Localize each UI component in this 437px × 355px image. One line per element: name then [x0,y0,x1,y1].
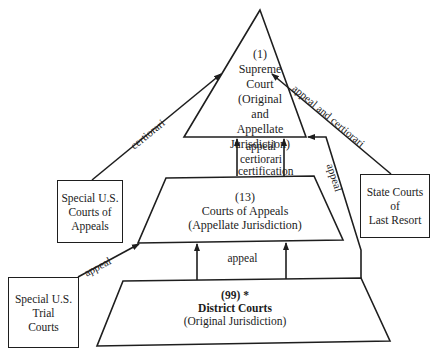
courts-of-appeals-jurisdiction: (Appellate Jurisdiction) [170,218,320,232]
special-trial-courts-text: Special U.S. Trial Courts [15,292,72,334]
special-trial-courts-box: Special U.S. Trial Courts [8,277,79,348]
courts-of-appeals-label: (13) Courts of Appeals (Appellate Jurisd… [170,190,320,232]
supreme-court-jurisdiction-3: Appellate [213,122,307,137]
supreme-court-jurisdiction-1: (Original [213,92,307,107]
supreme-court-label: (1) Supreme Court (Original and Appellat… [213,47,307,152]
appeals-to-supreme-label: appeal certiorari certification [238,140,284,178]
district-to-appeals-label: appeal [215,252,270,266]
district-courts-count: (99) * [170,289,300,302]
special-courts-of-appeals-box: Special U.S. Courts of Appeals [57,180,123,243]
district-courts-label: (99) * District Courts (Original Jurisdi… [170,289,300,328]
supreme-court-jurisdiction-2: and [213,107,307,122]
supreme-court-name-1: Supreme [213,62,307,77]
edge-label-certification: certification [238,165,284,178]
courts-of-appeals-count: (13) [170,190,320,204]
courts-of-appeals-name: Courts of Appeals [170,204,320,218]
supreme-court-count: (1) [213,47,307,62]
district-courts-name: District Courts [170,302,300,315]
edge-label-appeal: appeal [238,140,284,153]
edge-label-certiorari: certiorari [238,153,284,166]
special-courts-of-appeals-text: Special U.S. Courts of Appeals [61,191,118,233]
state-courts-text: State Courts of Last Resort [367,185,424,227]
state-courts-box: State Courts of Last Resort [360,174,430,238]
district-courts-jurisdiction: (Original Jurisdiction) [170,315,300,328]
